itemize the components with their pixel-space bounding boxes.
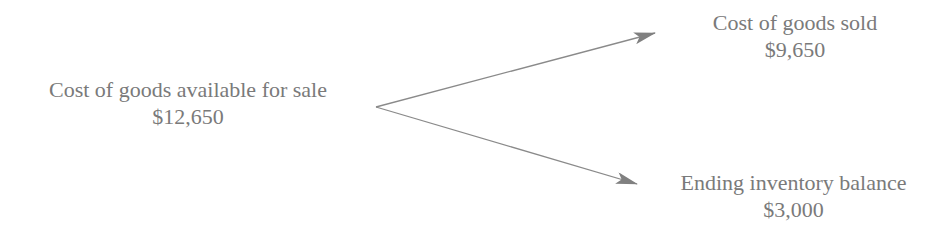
source-label: Cost of goods available for sale — [8, 76, 368, 103]
ending-inventory-label: Ending inventory balance — [650, 169, 937, 196]
arrow-to-ending-inventory — [376, 107, 637, 184]
cogs-label: Cost of goods sold — [655, 9, 935, 36]
ending-inventory-value: $3,000 — [650, 196, 937, 223]
ending-inventory-node: Ending inventory balance $3,000 — [650, 169, 937, 223]
cogs-node: Cost of goods sold $9,650 — [655, 9, 935, 63]
source-node: Cost of goods available for sale $12,650 — [8, 76, 368, 130]
source-value: $12,650 — [8, 103, 368, 130]
cogs-value: $9,650 — [655, 36, 935, 63]
arrow-to-cogs — [376, 33, 655, 107]
